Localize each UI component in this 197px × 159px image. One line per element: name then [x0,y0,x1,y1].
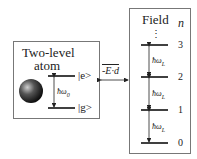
field-title: Field [142,13,169,26]
atom-sphere-icon [19,79,43,103]
ground-state-label: |g> [78,102,92,113]
atom-gap-label: ħω0 [57,88,70,98]
field-gap-label-lower: ħωL [152,123,165,133]
coupling-label: -E·d [102,66,119,76]
field-ellipsis: ⋮ [151,29,161,39]
field-level-3: 3 [178,40,183,50]
field-level-0: 0 [178,138,183,148]
field-gap-label-upper: ħωL [152,57,165,67]
field-index-label: n [178,17,184,29]
atom-title-line2: atom [34,59,60,72]
excited-state-label: |e> [78,70,91,81]
field-level-2: 2 [178,72,183,82]
field-gap-label-middle: ħωL [152,90,165,100]
field-level-1: 1 [178,105,183,115]
